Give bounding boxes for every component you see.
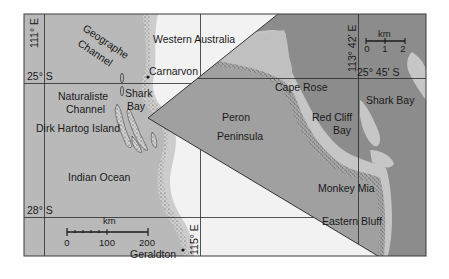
geraldton-marker (181, 248, 184, 251)
label-shark: Shark (125, 87, 153, 99)
label-peninsula: Peninsula (217, 130, 263, 142)
label-carnarvon: Carnarvon (149, 65, 198, 77)
label-eastern-bluff: Eastern Bluff (322, 215, 382, 227)
label-111e: 111° E (28, 18, 40, 48)
label-peron: Peron (222, 111, 250, 123)
label-113-42e: 113° 42' E (346, 25, 358, 72)
inset-scale-tick-1: 1 (382, 43, 387, 54)
shark-bay-map: 111° E 115° E 25° S 28° S Western Austra… (0, 0, 449, 279)
label-115e: 115° E (188, 224, 200, 255)
inset-scale-tick-2: 2 (400, 43, 405, 54)
label-geraldton: Geraldton (130, 248, 176, 260)
label-western-australia: Western Australia (153, 33, 235, 45)
label-naturaliste: Naturaliste (58, 90, 108, 102)
label-shark-bay: Bay (127, 100, 146, 112)
label-naturaliste-channel: Channel (66, 103, 105, 115)
label-25s: 25° S (27, 70, 53, 82)
label-dirk-hartog-island: Dirk Hartog Island (36, 122, 120, 134)
label-red-cliff-bay: Bay (333, 124, 352, 136)
label-inset-shark-bay: Shark Bay (366, 94, 415, 106)
label-monkey-mia: Monkey Mia (318, 182, 375, 194)
label-cape-rose: Cape Rose (275, 81, 328, 93)
inset-scale-unit: km (378, 28, 391, 39)
label-28s: 28° S (27, 204, 53, 216)
label-red-cliff: Red Cliff (312, 111, 352, 123)
main-scale-unit: km (103, 215, 116, 226)
main-scale-tick-100: 100 (99, 237, 115, 248)
inset-scale-tick-0: 0 (364, 43, 369, 54)
label-indian-ocean: Indian Ocean (68, 171, 131, 183)
main-scale-tick-200: 200 (139, 237, 155, 248)
main-scale-tick-0: 0 (64, 237, 69, 248)
label-25-45s: 25° 45' S (357, 66, 399, 78)
